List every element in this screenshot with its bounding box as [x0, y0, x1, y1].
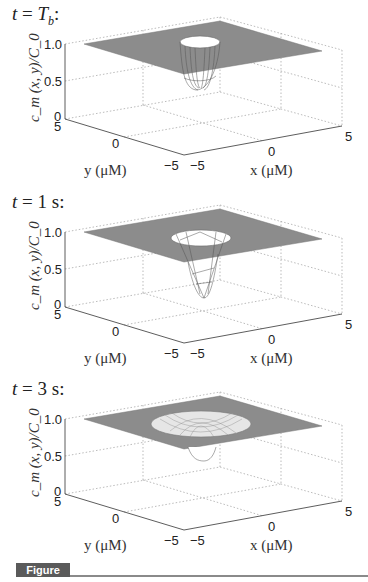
x-axis-label: x (μM)	[250, 162, 293, 179]
x-tick: 5	[345, 130, 352, 143]
z-tick: 0.5	[44, 450, 62, 463]
z-axis-label: c_m (x, y)/C_0	[26, 221, 43, 310]
x-axis-label: x (μM)	[250, 537, 293, 554]
surface-plot-panel-1: t = Tb:	[0, 0, 368, 188]
y-tick: −5	[164, 534, 179, 547]
x-axis-label: x (μM)	[250, 350, 293, 367]
y-axis-label: y (μM)	[84, 537, 127, 554]
x-tick: −5	[190, 534, 205, 547]
z-axis-label: c_m (x, y)/C_0	[26, 33, 43, 122]
z-tick: 1.0	[44, 226, 62, 239]
surface-plot	[0, 0, 368, 188]
surface-plot-panel-2: t = 1 s:	[0, 188, 368, 376]
x-tick: 0	[268, 520, 275, 533]
y-tick: 5	[54, 120, 61, 133]
x-tick: −5	[190, 347, 205, 360]
z-tick: 0.5	[44, 263, 62, 276]
x-tick: −5	[190, 159, 205, 172]
x-tick: 5	[345, 318, 352, 331]
z-axis-label: c_m (x, y)/C_0	[26, 408, 43, 497]
figure-rule	[70, 575, 368, 577]
z-tick: 1.0	[44, 413, 62, 426]
surface-plot	[0, 188, 368, 376]
y-tick: 0	[112, 137, 119, 150]
x-tick: 0	[268, 145, 275, 158]
y-tick: 5	[54, 495, 61, 508]
surface-plot-panel-3: t = 3 s:	[0, 375, 368, 563]
figure-label: Figure 2.16	[16, 563, 70, 577]
x-tick: 0	[268, 333, 275, 346]
y-axis-label: y (μM)	[84, 162, 127, 179]
y-tick: −5	[164, 159, 179, 172]
y-tick: 0	[112, 512, 119, 525]
y-axis-label: y (μM)	[84, 350, 127, 367]
z-tick: 1.0	[44, 38, 62, 51]
y-tick: 5	[54, 308, 61, 321]
y-tick: −5	[164, 347, 179, 360]
surface-plot	[0, 375, 368, 563]
x-tick: 5	[345, 505, 352, 518]
z-tick: 0.5	[44, 75, 62, 88]
y-tick: 0	[112, 325, 119, 338]
